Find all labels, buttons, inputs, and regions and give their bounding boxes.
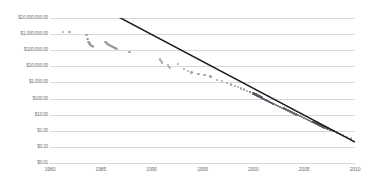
gridline	[50, 163, 355, 164]
y-axis-tick-label: $100.00	[0, 96, 48, 101]
y-axis-tick-label: $10,000.00	[0, 63, 48, 68]
x-axis-tick-label: 1980	[45, 166, 56, 172]
chart-root: $10,000,000.00$1,000,000.00$100,000.00$1…	[0, 0, 369, 191]
trendline	[50, 18, 355, 163]
x-axis-tick-label: 1995	[197, 166, 208, 172]
x-axis-tick-label: 1990	[146, 166, 157, 172]
x-axis-tick-label: 2005	[299, 166, 310, 172]
y-axis-tick-label: $1,000.00	[0, 79, 48, 84]
x-axis-tick-label: 2000	[248, 166, 259, 172]
y-axis-tick-label: $1.00	[0, 128, 48, 133]
trendline-segment	[56, 18, 355, 142]
y-axis-tick-label: $10.00	[0, 112, 48, 117]
y-axis-tick-label: $100,000.00	[0, 47, 48, 52]
y-axis-tick-label: $10,000,000.00	[0, 15, 48, 20]
y-axis-tick-label: $0.10	[0, 144, 48, 149]
y-axis-tick-label: $0.01	[0, 160, 48, 165]
y-axis-tick-label: $1,000,000.00	[0, 31, 48, 36]
x-axis-tick-label: 2010	[350, 166, 361, 172]
x-axis-tick-label: 1985	[95, 166, 106, 172]
plot-area	[50, 18, 355, 163]
